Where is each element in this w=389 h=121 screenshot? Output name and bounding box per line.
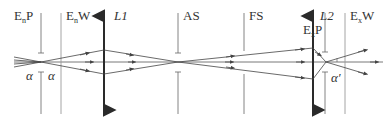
- label-lens-l1: L1: [113, 8, 128, 23]
- label-alpha-prime: α′: [331, 70, 341, 85]
- label-entrance-pupil: EnP: [14, 8, 33, 25]
- label-alpha-left: α: [26, 68, 34, 83]
- label-field-stop: FS: [249, 8, 263, 23]
- label-alpha-right: α: [48, 68, 56, 83]
- aperture-stop: [175, 13, 181, 114]
- entrance-pupil-stop: [38, 13, 44, 114]
- ray-bundle: [14, 48, 377, 79]
- label-lens-l2: L2: [319, 8, 334, 23]
- label-aperture-stop: AS: [183, 8, 200, 23]
- label-entrance-window: EnW: [66, 8, 91, 25]
- label-exit-window: ExW: [350, 8, 375, 25]
- optical-diagram: EnP EnW L1 AS FS L2 ExP ExW α α α′: [0, 0, 389, 121]
